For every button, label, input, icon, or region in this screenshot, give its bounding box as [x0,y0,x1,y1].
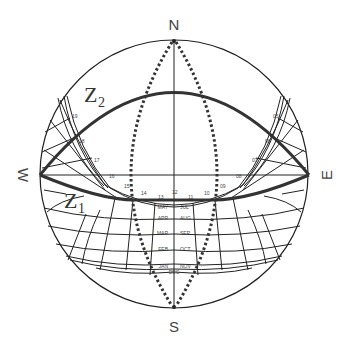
month-label: JUL [180,204,189,210]
month-label: APR [158,215,169,221]
hour-label: 17 [94,157,100,163]
hour-label: 11 [188,194,193,200]
month-label: SEP [180,230,191,236]
svg-text:1: 1 [78,201,85,216]
hour-label: 15 [124,183,130,189]
z1-label: Z 1 [64,188,85,216]
month-label: DEC [169,269,180,275]
svg-text:2: 2 [98,95,105,110]
hour-label: 16 [109,173,115,179]
month-label: JAN [159,263,169,269]
sun-path-diagram: N S W E Z 2 Z 1 19 18 17 16 15 14 13 12 … [0,0,347,346]
hour-label: 06 [265,138,271,144]
north-label: N [169,16,180,33]
hour-label: 09 [220,183,226,189]
hour-label: 08 [236,173,242,179]
month-label: NOV [180,263,192,269]
svg-text:Z: Z [84,82,97,107]
month-label: AUG [180,215,191,221]
month-label: FEB [158,246,168,252]
hour-label: 19 [72,113,78,119]
month-label: OCT [180,246,191,252]
hour-label: 18 [79,138,85,144]
east-label: E [318,170,335,180]
hour-labels-bottom: 15 14 13 12 11 10 09 [124,183,226,200]
north-point [172,39,176,43]
month-label: MAR [157,230,169,236]
svg-text:Z: Z [64,188,77,213]
month-label: MAY [158,204,169,210]
z2-label: Z 2 [84,82,105,110]
hour-label: 13 [158,194,164,200]
hour-label: 12 [172,189,178,195]
south-label: S [169,318,179,335]
hour-label: 14 [141,190,147,196]
south-point [172,305,176,309]
west-label: W [15,168,32,183]
hour-label: 05 [273,113,279,119]
hour-label: 07 [252,157,258,163]
hour-label: 10 [204,190,210,196]
